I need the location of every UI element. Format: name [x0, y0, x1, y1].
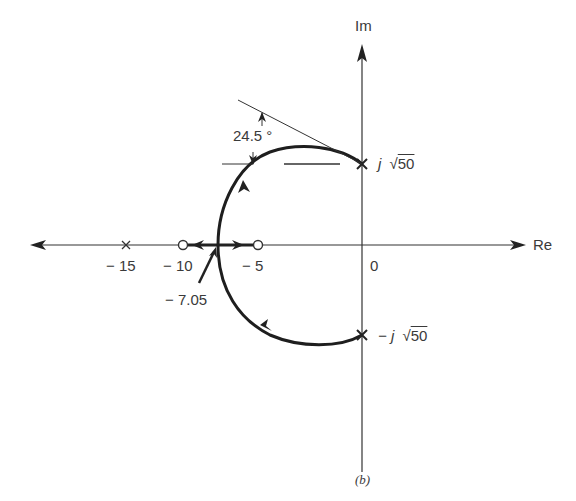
locus-arrow-upper-icon [238, 180, 250, 193]
sqrt-icon: √50 [390, 155, 415, 172]
sqrt-icon: √50 [402, 327, 427, 344]
figure-caption: (b) [355, 473, 370, 486]
pole-lower-value: 50 [411, 327, 428, 344]
origin-label: 0 [370, 258, 378, 273]
imag-axis [357, 44, 367, 472]
breakaway-label: − 7.05 [165, 292, 207, 307]
imag-axis-label: Im [355, 18, 372, 33]
breakaway-pointer [199, 247, 217, 283]
tick-label-minus10: − 10 [163, 258, 193, 273]
pole-upper-value: 50 [398, 155, 415, 172]
zero-minus10-icon [179, 241, 188, 250]
pole-upper-j: j [378, 155, 381, 172]
real-axis [30, 240, 526, 250]
root-locus-diagram [0, 0, 576, 501]
real-axis-locus-segment [188, 240, 253, 250]
zero-minus5-icon [254, 241, 263, 250]
pole-lower-prefix: − j [378, 327, 394, 344]
tick-label-minus15: − 15 [106, 258, 136, 273]
pole-upper-label: j √50 [378, 156, 414, 171]
real-axis-label: Re [533, 237, 552, 252]
pole-lower-label: − j √50 [378, 328, 427, 343]
angle-label: 24.5 ° [233, 128, 272, 143]
tick-label-minus5: − 5 [242, 258, 263, 273]
